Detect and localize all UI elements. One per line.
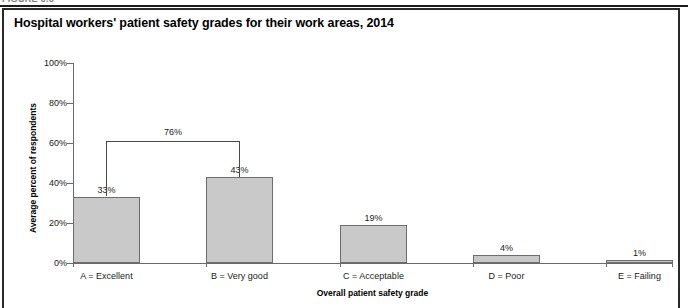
- bar-c-acceptable: [340, 225, 407, 263]
- x-axis-line: [73, 263, 672, 264]
- x-axis-title: Overall patient safety grade: [73, 288, 672, 298]
- y-axis-label-100: 100%: [31, 58, 67, 68]
- x-axis-tick-5: [672, 263, 673, 267]
- x-axis-label-e: E = Failing: [589, 271, 688, 281]
- x-axis-tick-4: [606, 263, 607, 267]
- bar-a-excellent: [73, 197, 140, 263]
- x-axis-tick-1: [206, 263, 207, 267]
- bracket-span-line: [106, 141, 240, 142]
- x-axis-tick-2: [340, 263, 341, 267]
- bracket-right-arm: [239, 141, 240, 177]
- bracket-left-arm: [106, 141, 107, 196]
- y-axis-title: Average percent of respondents: [28, 73, 38, 263]
- bar-d-poor: [473, 255, 540, 263]
- x-axis-tick-3: [473, 263, 474, 267]
- y-axis-tick-40: [67, 183, 73, 184]
- bar-b-very-good: [206, 177, 273, 263]
- y-axis-tick-80: [67, 103, 73, 104]
- bar-value-e: 1%: [606, 248, 673, 258]
- x-axis-label-d: D = Poor: [456, 271, 557, 281]
- x-axis-label-c: C = Acceptable: [323, 271, 424, 281]
- bar-value-d: 4%: [473, 243, 540, 253]
- y-axis-tick-100: [67, 63, 73, 64]
- bar-e-failing: [606, 260, 673, 263]
- bar-value-c: 19%: [340, 213, 407, 223]
- bracket-value-label: 76%: [140, 127, 206, 137]
- y-axis-tick-60: [67, 143, 73, 144]
- x-axis-label-b: B = Very good: [189, 271, 290, 281]
- x-axis-label-a: A = Excellent: [56, 271, 157, 281]
- x-axis-tick-0: [73, 263, 74, 267]
